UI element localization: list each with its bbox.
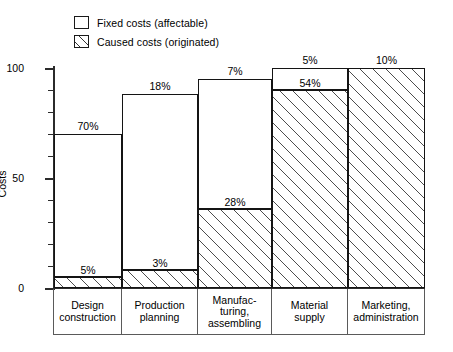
y-tick-60 [48, 156, 53, 157]
y-tick-80 [48, 112, 53, 113]
legend-item-fixed-costs: Fixed costs (affectable) [74, 14, 219, 31]
bar-2-caused-label: 3% [152, 257, 167, 269]
legend-label-caused-costs: Caused costs (originated) [97, 36, 219, 48]
bar-3[interactable] [198, 79, 272, 288]
y-axis-title: Costs [0, 171, 8, 198]
x-axis-category-3: Manufac-turing,assembling [198, 289, 272, 335]
bar-5-top-label: 10% [376, 54, 397, 66]
y-tick-label-50: 50 [12, 172, 24, 184]
x-axis-category-1: Designconstruction [54, 289, 122, 335]
legend-label-fixed-costs: Fixed costs (affectable) [97, 17, 208, 29]
bar-4-top-label: 5% [302, 54, 317, 66]
x-axis-category-row: DesignconstructionProductionplanningManu… [53, 289, 425, 335]
plot-area: 70%5%18%3%7%28%5%54%10% [54, 68, 425, 288]
chart-root: Fixed costs (affectable) Caused costs (o… [0, 0, 453, 352]
bar-4-caused-label: 54% [296, 77, 323, 89]
y-tick-20 [48, 244, 53, 245]
bar-3-caused-segment[interactable] [198, 209, 272, 288]
bar-1-caused-label: 5% [80, 264, 95, 276]
y-tick-70 [48, 134, 53, 135]
x-axis-category-2: Productionplanning [122, 289, 198, 335]
y-tick-10 [48, 266, 53, 267]
bar-3-caused-label: 28% [224, 196, 245, 208]
chart-legend: Fixed costs (affectable) Caused costs (o… [74, 14, 219, 52]
y-tick-90 [48, 90, 53, 91]
bar-5[interactable] [348, 68, 425, 288]
y-tick-40 [48, 200, 53, 201]
bar-2-caused-segment[interactable] [122, 270, 198, 288]
square-outline-icon [74, 16, 89, 29]
bar-3-fixed-segment[interactable] [198, 79, 272, 209]
bar-1-fixed-segment[interactable] [54, 134, 122, 277]
bar-3-top-label: 7% [227, 65, 242, 77]
legend-item-caused-costs: Caused costs (originated) [74, 33, 219, 50]
square-hatched-icon [74, 35, 89, 48]
y-tick-30 [48, 222, 53, 223]
y-axis-ticks [40, 68, 53, 288]
bar-4[interactable] [272, 68, 348, 288]
bar-1-top-label: 70% [77, 120, 98, 132]
x-axis-category-label-3: Manufac-turing,assembling [208, 295, 261, 330]
y-tick-100 [45, 68, 53, 70]
bar-1-caused-segment[interactable] [54, 277, 122, 288]
x-axis-category-label-2: Productionplanning [134, 300, 184, 323]
bar-2-fixed-segment[interactable] [122, 94, 198, 270]
x-axis-category-5: Marketing,administration [348, 289, 425, 335]
y-tick-0 [45, 288, 53, 290]
bar-2-top-label: 18% [149, 80, 170, 92]
x-axis-category-label-1: Designconstruction [59, 300, 116, 323]
x-axis-category-label-5: Marketing,administration [353, 300, 418, 323]
y-tick-label-100: 100 [6, 62, 24, 74]
bar-4-caused-segment[interactable] [272, 90, 348, 288]
y-tick-label-0: 0 [18, 282, 24, 294]
x-axis-category-label-4: Materialsupply [291, 300, 328, 323]
y-tick-50 [45, 178, 53, 180]
x-axis-category-4: Materialsupply [272, 289, 348, 335]
bar-5-caused-segment[interactable] [348, 68, 425, 288]
